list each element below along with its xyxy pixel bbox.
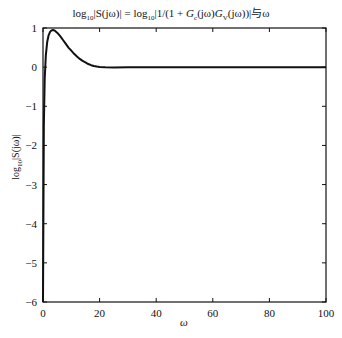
x-tick-label: 100 [318, 307, 335, 319]
y-tick-label: −1 [25, 100, 37, 112]
x-tick-label: 80 [264, 307, 276, 319]
axis-ticks [43, 28, 326, 302]
y-tick-label: −5 [25, 257, 37, 269]
data-line [43, 30, 326, 302]
y-tick-label: −2 [25, 139, 37, 151]
x-tick-label: 40 [151, 307, 163, 319]
axes-frame [43, 28, 326, 302]
y-tick-label: −4 [25, 218, 37, 230]
plot-area: 02040608010010−1−2−3−4−5−6 [0, 0, 342, 338]
x-tick-label: 20 [94, 307, 106, 319]
x-tick-label: 0 [40, 307, 46, 319]
y-tick-label: 0 [32, 61, 38, 73]
y-tick-label: 1 [32, 22, 38, 34]
x-tick-label: 60 [207, 307, 219, 319]
y-tick-label: −6 [25, 296, 37, 308]
y-axis-label: log10|S(jω)| [10, 102, 24, 212]
y-tick-label: −3 [25, 179, 37, 191]
x-axis-label: ω [180, 316, 188, 328]
